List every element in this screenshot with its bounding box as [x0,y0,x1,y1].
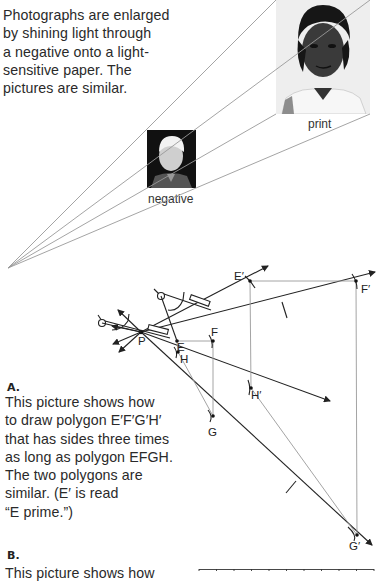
label-g-prime: G′ [349,540,360,552]
label-h-prime: H′ [251,389,261,401]
section-a-line: The two polygons are [5,466,173,484]
label-e: E [177,341,185,353]
label-g: G [208,426,217,438]
section-b-heading: B. [7,549,20,562]
section-a-line: This picture shows how [5,393,173,411]
polygon-e-prime [250,281,357,535]
label-e-prime: E′ [234,270,244,282]
projection-rays [8,0,370,268]
label-f: F [211,326,218,338]
section-b-first-line: This picture shows how [5,564,155,582]
section-a-paragraph: This picture shows how to draw polygon E… [5,393,173,521]
section-a-line: similar. (E′ is read [5,484,173,502]
section-a-line: to draw polygon E′F′G′H′ [5,411,173,429]
label-f-prime: F′ [361,283,370,295]
label-p: P [138,335,146,347]
section-a-line: as long as polygon EFGH. [5,448,173,466]
section-a-line: “E prime.”) [5,503,173,521]
section-a-line: that has sides three times [5,430,173,448]
label-h: H [180,353,188,365]
